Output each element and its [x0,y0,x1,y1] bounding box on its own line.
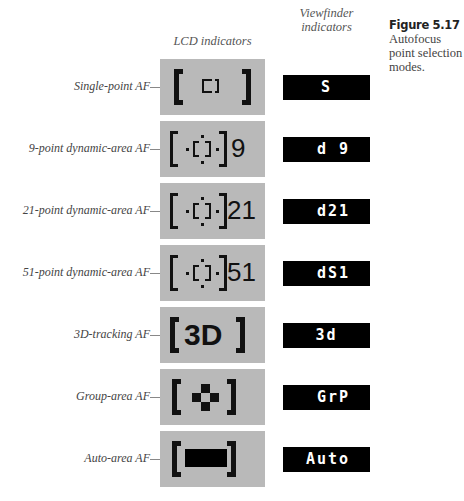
lcd-indicator [160,369,265,425]
bracket-left-icon [170,193,178,229]
viewfinder-indicator: dS1 [283,261,370,286]
mode-row-single-point: Single-point AF S [0,59,464,115]
single-point-icon [202,79,212,93]
viewfinder-indicator: 3d [283,323,370,348]
mode-label: 51-point dynamic-area AF [23,265,150,280]
focus-dot-icon [201,259,204,262]
viewfinder-indicators-header: Viewfinder indicators [283,6,370,34]
leader-line [150,459,160,460]
auto-area-bar-icon [185,449,227,467]
mode-label: Group-area AF [76,389,150,404]
center-point-icon [193,203,199,219]
focus-dot-icon [201,161,204,164]
center-point-icon [193,141,199,157]
viewfinder-header-line2: indicators [283,20,370,34]
viewfinder-indicator: d 9 [283,137,370,162]
viewfinder-header-line1: Viewfinder [283,6,370,20]
lcd-indicator [160,59,265,115]
viewfinder-indicator: d21 [283,199,370,224]
focus-dot-icon [201,135,204,138]
figure-title: Figure 5.17 [389,18,460,32]
bracket-left-icon [172,379,181,415]
bracket-right-icon [219,255,227,291]
bracket-right-icon [227,379,236,415]
bracket-left-icon [174,69,183,105]
lcd-indicator [160,431,265,487]
lcd-indicator: 21 [160,183,265,239]
leader-line [150,87,160,88]
bracket-left-icon [172,441,181,477]
bracket-right-icon [236,317,245,353]
center-point-icon [205,203,211,219]
single-point-icon-right [215,79,219,93]
lcd-indicator: 9 [160,121,265,177]
mode-label: Single-point AF [74,79,150,94]
focus-dot-icon [186,210,189,213]
leader-line [150,335,160,336]
mode-label: 9-point dynamic-area AF [29,141,150,156]
viewfinder-indicator: S [283,75,370,100]
viewfinder-indicator: Auto [283,447,370,472]
lcd-number: 9 [231,133,245,163]
mode-row-auto-area: Auto-area AF Auto [0,431,464,487]
lcd-number: 51 [227,257,256,287]
bracket-right-icon [219,193,227,229]
mode-row-21-point: 21-point dynamic-area AF 21 d21 [0,183,464,239]
mode-label: 3D-tracking AF [74,327,150,342]
focus-dot-icon [186,148,189,151]
mode-row-51-point: 51-point dynamic-area AF 51 dS1 [0,245,464,301]
leader-line [150,397,160,398]
bracket-right-icon [242,69,251,105]
bracket-left-icon [170,317,179,353]
lcd-indicator: 3D [160,307,265,363]
bracket-left-icon [170,255,178,291]
mode-row-9-point: 9-point dynamic-area AF 9 d 9 [0,121,464,177]
mode-label: Auto-area AF [84,451,150,466]
leader-line [150,149,160,150]
center-point-icon [193,265,199,281]
center-point-icon [205,265,211,281]
viewfinder-indicator: GrP [283,385,370,410]
mode-label: 21-point dynamic-area AF [23,203,150,218]
lcd-3d-label: 3D [184,318,222,352]
group-cross-icon [192,384,219,411]
lcd-indicators-header: LCD indicators [160,34,265,48]
bracket-right-icon [227,441,236,477]
bracket-right-icon [219,131,227,167]
focus-dot-icon [201,197,204,200]
leader-line [150,211,160,212]
focus-dot-icon [201,285,204,288]
focus-dot-icon [186,272,189,275]
lcd-indicator: 51 [160,245,265,301]
lcd-number: 21 [227,195,256,225]
focus-dot-icon [201,223,204,226]
mode-row-group-area: Group-area AF GrP [0,369,464,425]
center-point-icon [205,141,211,157]
bracket-left-icon [170,131,178,167]
mode-row-3d-tracking: 3D-tracking AF 3D 3d [0,307,464,363]
leader-line [150,273,160,274]
